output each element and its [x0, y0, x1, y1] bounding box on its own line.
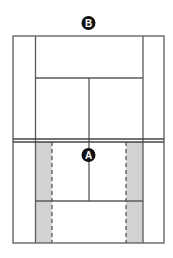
tennis-court-diagram: B A: [0, 0, 173, 258]
shaded-zone-right: [126, 142, 143, 243]
marker-a: A: [82, 148, 96, 162]
marker-b-label: B: [85, 18, 92, 29]
marker-a-label: A: [85, 150, 92, 161]
marker-b: B: [82, 16, 96, 30]
shaded-zone-left: [36, 142, 52, 243]
